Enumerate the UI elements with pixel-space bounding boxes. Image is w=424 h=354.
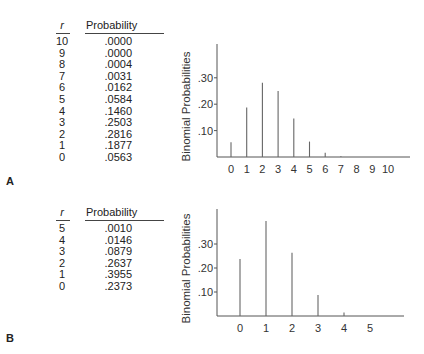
y-axis-label: Binomial Probabilities [180, 213, 192, 323]
chart-b: .10.20.30Binomial Probabilities012345 [0, 0, 424, 354]
y-tick-label: .30 [198, 238, 213, 250]
y-tick-label: .20 [198, 262, 213, 274]
x-tick-label: 5 [367, 322, 373, 334]
x-tick-label: 1 [263, 322, 269, 334]
x-tick-label: 3 [315, 322, 321, 334]
panel-b: r Probability 5.00104.01463.08792.26371.… [0, 0, 424, 354]
x-tick-label: 2 [289, 322, 295, 334]
y-tick-label: .10 [198, 286, 213, 298]
x-tick-label: 0 [237, 322, 243, 334]
x-tick-label: 4 [341, 322, 347, 334]
